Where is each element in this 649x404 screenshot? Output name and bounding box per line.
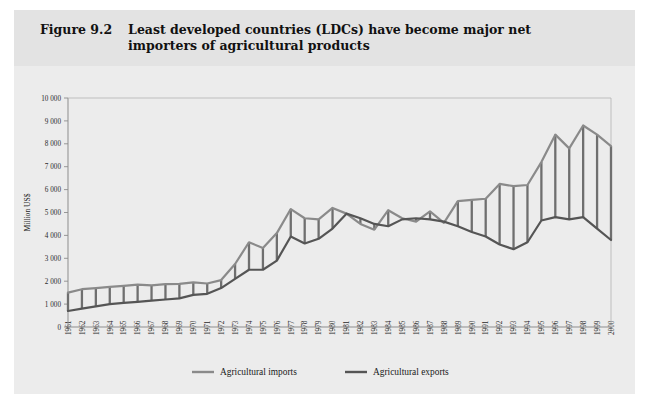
x-axis-tick-label: 2000 [608, 320, 616, 335]
x-axis-tick-label: 1985 [399, 320, 407, 335]
series-line-agricultural-imports [68, 125, 611, 292]
legend-label: Agricultural imports [220, 367, 297, 377]
x-axis-tick-label: 1973 [232, 320, 240, 335]
x-axis-tick-label: 1977 [288, 320, 296, 335]
y-axis-tick-label: 9 000 [45, 118, 62, 126]
y-axis-tick-label: 3 000 [45, 255, 62, 263]
x-axis-tick-label: 1998 [580, 320, 588, 335]
y-axis: 01 0002 0003 0004 0005 0006 0007 0008 00… [23, 95, 68, 332]
y-axis-tick-label: 7 000 [45, 163, 62, 171]
series-gap-hatching [68, 125, 611, 310]
x-axis-tick-label: 1991 [482, 320, 490, 335]
x-axis-tick-label: 1962 [79, 320, 87, 335]
x-axis-tick-label: 1982 [357, 320, 365, 335]
x-axis-tick-label: 1999 [594, 320, 602, 335]
series-line-agricultural-exports [68, 214, 611, 311]
y-axis-tick-label: 8 000 [45, 140, 62, 148]
y-axis-tick-label: 5 000 [45, 209, 62, 217]
figure-panel: Figure 9.2 Least developed countries (LD… [14, 10, 635, 394]
x-axis-tick-label: 1997 [566, 320, 574, 335]
x-axis-tick-label: 1992 [496, 320, 504, 335]
x-axis-tick-label: 1972 [218, 320, 226, 335]
x-axis-tick-label: 1965 [120, 320, 128, 335]
x-axis-tick-label: 1966 [134, 320, 142, 335]
figure-number-label: Figure 9.2 [40, 22, 112, 38]
x-axis-tick-label: 1984 [385, 320, 393, 335]
chart-legend: Agricultural importsAgricultural exports [192, 367, 449, 377]
x-axis-tick-label: 1967 [148, 320, 156, 335]
x-axis-tick-label: 1996 [552, 320, 560, 335]
x-axis-tick-label: 1986 [413, 320, 421, 335]
x-axis-tick-label: 1979 [315, 320, 323, 335]
y-axis-tick-label: 6 000 [45, 186, 62, 194]
title-row: Figure 9.2 Least developed countries (LD… [40, 22, 607, 53]
legend-label: Agricultural exports [373, 367, 449, 377]
x-axis-tick-label: 1961 [65, 320, 73, 335]
x-axis-tick-label: 1963 [93, 320, 101, 335]
chart-svg: 01 0002 0003 0004 0005 0006 0007 0008 00… [14, 66, 635, 394]
x-axis-tick-label: 1980 [329, 320, 337, 335]
x-axis-tick-label: 1968 [162, 320, 170, 335]
figure-header: Figure 9.2 Least developed countries (LD… [14, 10, 635, 66]
x-axis-tick-label: 1978 [301, 320, 309, 335]
x-axis-tick-label: 1995 [538, 320, 546, 335]
chart-plot-area: 01 0002 0003 0004 0005 0006 0007 0008 00… [14, 66, 635, 394]
x-axis-tick-label: 1989 [455, 320, 463, 335]
x-axis-tick-label: 1974 [246, 320, 254, 335]
series-lines [68, 125, 611, 310]
x-axis-tick-label: 1975 [260, 320, 268, 335]
x-axis-tick-label: 1993 [510, 320, 518, 335]
y-axis-tick-label: 1 000 [45, 301, 62, 309]
y-axis-tick-label: 4 000 [45, 232, 62, 240]
plot-frame [68, 98, 611, 327]
x-axis-tick-label: 1994 [524, 320, 532, 335]
x-axis-tick-label: 1969 [176, 320, 184, 335]
x-axis-tick-label: 1981 [343, 320, 351, 335]
y-axis-tick-label: 10 000 [41, 95, 61, 103]
figure-root: Figure 9.2 Least developed countries (LD… [0, 0, 649, 404]
x-axis-tick-label: 1990 [469, 320, 477, 335]
x-axis-tick-label: 1970 [190, 320, 198, 335]
x-axis-tick-label: 1987 [427, 320, 435, 335]
y-axis-tick-label: 0 [57, 324, 61, 332]
x-axis-tick-label: 1983 [371, 320, 379, 335]
x-axis-tick-label: 1976 [274, 320, 282, 335]
x-axis: 1961196219631964196519661967196819691970… [65, 320, 616, 335]
x-axis-tick-label: 1971 [204, 320, 212, 335]
x-axis-tick-label: 1964 [107, 320, 115, 335]
figure-title: Least developed countries (LDCs) have be… [128, 22, 598, 53]
y-axis-tick-label: 2 000 [45, 278, 62, 286]
x-axis-tick-label: 1988 [441, 320, 449, 335]
y-axis-title: Million US$ [23, 193, 32, 231]
